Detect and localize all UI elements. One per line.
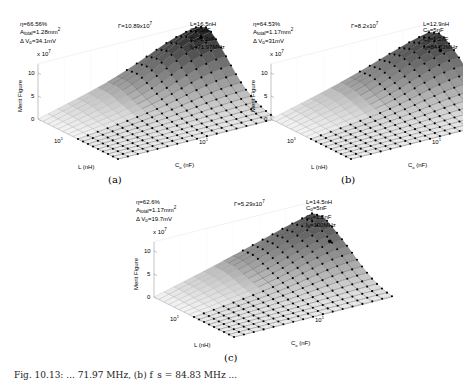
- z-tick-10: 10: [144, 248, 151, 254]
- merit-annotation: Γ=5.29x107: [234, 199, 265, 207]
- z-axis-label: Merit Figure: [17, 80, 23, 112]
- z-tick-10: 10: [261, 70, 268, 76]
- x-axis-label: L (nH): [311, 164, 327, 170]
- y-axis-label: Co (nF): [175, 162, 194, 170]
- y-tick: 101: [432, 137, 441, 145]
- x-tick: 101: [170, 314, 179, 322]
- z-axis-label: Merit Figure: [133, 258, 139, 290]
- z-tick-0: 0: [147, 294, 150, 300]
- y-axis-label: Co (nF): [408, 162, 427, 170]
- z-tick-5: 5: [31, 93, 34, 99]
- area-label: Atotal=1.28mm2: [20, 27, 60, 37]
- merit-annotation: Γ=8.2x107: [351, 21, 378, 29]
- flying-cap-label: Cx=1.2nF: [190, 36, 225, 44]
- annotation-right: L=14.5nH Co=5nF Cx=1.2nF fs=100MHz: [306, 199, 336, 231]
- subplot-label: (c): [224, 352, 237, 363]
- switching-freq-label: fs=84.83MHz: [423, 44, 458, 52]
- z-axis-label: Merit Figure: [250, 80, 256, 112]
- x-tick: 101: [54, 136, 63, 144]
- z-scale-label: x 107: [270, 49, 284, 57]
- y-tick: 101: [315, 315, 324, 323]
- z-tick-0: 0: [31, 116, 34, 122]
- ripple-label: Δ Vo=34.1mV: [20, 38, 60, 46]
- area-label: Atotal=1.17mm2: [136, 205, 176, 215]
- switching-freq-label: fs=100MHz: [306, 222, 336, 230]
- flying-cap-label: Cx=1.2nF: [423, 36, 458, 44]
- subplot-b: η=64.53% Atotal=1.17mm2 Δ Vo=31mV Γ=8.2x…: [233, 2, 463, 177]
- ripple-label: Δ Vo=19.7mV: [136, 216, 176, 224]
- subplot-c: η=62.6% Atotal=1.17mm2 Δ Vo=19.7mV Γ=5.2…: [116, 180, 346, 355]
- ripple-label: Δ Vo=31mV: [253, 38, 293, 46]
- annotation-right: L=12.9nH Co=5nF Cx=1.2nF fs=84.83MHz: [423, 21, 458, 53]
- y-axis-label: Co (nF): [291, 340, 310, 348]
- y-tick: 101: [199, 137, 208, 145]
- z-tick-5: 5: [147, 271, 150, 277]
- subplot-a: η=66.56% Atotal=1.28mm2 Δ Vo=34.1mV Γ=10…: [0, 2, 230, 177]
- switching-freq-label: fs=71.97MHz: [190, 44, 225, 52]
- z-scale-label: x 107: [153, 227, 167, 235]
- z-tick-10: 10: [28, 70, 35, 76]
- output-cap-label: Co=5nF: [190, 27, 225, 35]
- area-label: Atotal=1.17mm2: [253, 27, 293, 37]
- figure-caption: Fig. 10.13: ... 71.97 MHz, (b) f_s = 84.…: [14, 370, 237, 380]
- annotation-left: η=62.6% Atotal=1.17mm2 Δ Vo=19.7mV: [136, 199, 176, 224]
- output-cap-label: Co=5nF: [306, 205, 336, 213]
- x-tick: 101: [287, 136, 296, 144]
- output-cap-label: Co=5nF: [423, 27, 458, 35]
- annotation-right: L=16.5nH Co=5nF Cx=1.2nF fs=71.97MHz: [190, 21, 225, 53]
- z-tick-5: 5: [264, 93, 267, 99]
- merit-annotation: Γ=10.89x107: [118, 21, 152, 29]
- x-axis-label: L (nH): [78, 164, 94, 170]
- z-tick-0: 0: [264, 116, 267, 122]
- annotation-left: η=66.56% Atotal=1.28mm2 Δ Vo=34.1mV: [20, 21, 60, 46]
- z-scale-label: x 107: [37, 49, 51, 57]
- annotation-left: η=64.53% Atotal=1.17mm2 Δ Vo=31mV: [253, 21, 293, 46]
- flying-cap-label: Cx=1.2nF: [306, 214, 336, 222]
- x-axis-label: L (nH): [194, 342, 210, 348]
